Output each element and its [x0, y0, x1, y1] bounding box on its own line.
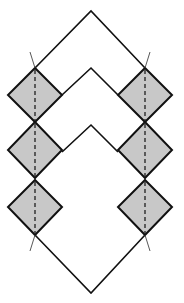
outer-chevron [35, 11, 145, 68]
tick-mark [30, 235, 35, 251]
diamond-group [8, 68, 172, 235]
tick-mark [145, 235, 150, 251]
bottom-v [35, 235, 145, 293]
middle-chevron [62, 68, 118, 95]
tick-mark [145, 52, 150, 68]
tick-mark [30, 52, 35, 68]
nested-chevron-diamond-diagram [0, 0, 184, 303]
inner-chevron [62, 125, 118, 152]
